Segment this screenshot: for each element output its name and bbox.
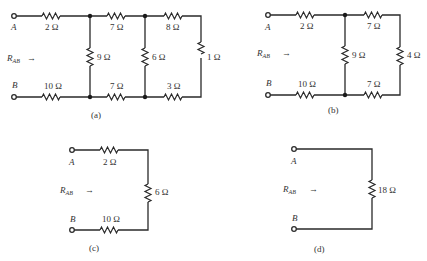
terminal-a-label: A: [10, 22, 17, 32]
terminal-b-label: B: [70, 214, 76, 224]
label-9ohm: 9 Ω: [97, 52, 111, 62]
caption-c: (c): [89, 243, 99, 253]
terminal-b: [70, 228, 75, 233]
resistor-c-10ohm: [100, 227, 118, 233]
resistor-a-2ohm: [42, 13, 60, 19]
circuit-d: A B RAB → 18 Ω (d): [282, 147, 396, 254]
resistor-b-7ohm-top: [364, 12, 382, 18]
arrow-icon: →: [85, 185, 94, 195]
resistor-b-4ohm: [397, 47, 403, 65]
resistor-b-2ohm: [296, 12, 314, 18]
rab-label: RAB: [6, 53, 20, 64]
label-4ohm: 4 Ω: [407, 50, 421, 60]
label-7ohm-top: 7 Ω: [367, 21, 381, 31]
terminal-a: [70, 148, 75, 153]
rab-label: RAB: [59, 185, 73, 196]
resistor-c-6ohm: [145, 184, 151, 202]
junction-node: [343, 13, 347, 17]
resistor-c-2ohm: [100, 147, 118, 153]
arrow-icon: →: [309, 184, 318, 194]
terminal-a: [292, 147, 297, 152]
resistor-a-6ohm: [142, 48, 148, 66]
resistor-a-7ohm-top: [107, 13, 125, 19]
terminal-a: [12, 14, 17, 19]
circuit-a: A B RAB → 2 Ω 7 Ω 8 Ω 9 Ω 6 Ω 1 Ω 10 Ω 7…: [6, 13, 221, 120]
terminal-b: [292, 227, 297, 232]
label-7ohm-bottom: 7 Ω: [110, 81, 124, 91]
label-6ohm: 6 Ω: [152, 52, 166, 62]
label-9ohm: 9 Ω: [352, 50, 366, 60]
label-2ohm: 2 Ω: [103, 157, 117, 167]
caption-b: (b): [328, 105, 339, 115]
resistor-a-9ohm: [87, 48, 93, 66]
terminal-a-label: A: [264, 22, 271, 32]
terminal-b-label: B: [292, 213, 298, 223]
terminal-a: [266, 13, 271, 18]
caption-a: (a): [91, 110, 101, 120]
label-1ohm: 1 Ω: [207, 52, 221, 62]
resistor-b-7ohm-bottom: [364, 92, 382, 98]
terminal-b: [12, 95, 17, 100]
rab-label: RAB: [256, 48, 270, 59]
label-10ohm: 10 Ω: [298, 79, 316, 89]
resistor-a-7ohm-bottom: [107, 94, 125, 100]
label-18ohm: 18 Ω: [378, 185, 396, 195]
circuit-b: A B RAB → 2 Ω 7 Ω 9 Ω 4 Ω 10 Ω 7 Ω (b): [256, 12, 421, 115]
label-3ohm: 3 Ω: [167, 81, 181, 91]
label-10ohm: 10 Ω: [102, 214, 120, 224]
arrow-icon: →: [27, 53, 36, 63]
arrow-icon: →: [282, 48, 291, 58]
label-7ohm-top: 7 Ω: [110, 22, 124, 32]
resistor-b-10ohm: [296, 92, 314, 98]
circuit-c: A B RAB → 2 Ω 6 Ω 10 Ω (c): [59, 147, 169, 253]
junction-node: [88, 95, 92, 99]
caption-d: (d): [314, 244, 325, 254]
junction-node: [88, 14, 92, 18]
terminal-b-label: B: [12, 80, 18, 90]
resistor-d-18ohm: [369, 180, 375, 198]
resistor-a-8ohm: [164, 13, 182, 19]
junction-node: [143, 95, 147, 99]
label-8ohm: 8 Ω: [166, 22, 180, 32]
junction-node: [143, 14, 147, 18]
terminal-a-label: A: [68, 157, 75, 167]
junction-node: [343, 93, 347, 97]
resistor-a-3ohm: [164, 94, 182, 100]
rab-label: RAB: [282, 184, 296, 195]
resistor-a-10ohm: [42, 94, 60, 100]
circuit-figure: A B RAB → 2 Ω 7 Ω 8 Ω 9 Ω 6 Ω 1 Ω 10 Ω 7…: [0, 0, 427, 261]
label-2ohm: 2 Ω: [45, 22, 59, 32]
resistor-a-1ohm: [198, 42, 204, 54]
resistor-b-9ohm: [342, 46, 348, 64]
terminal-a-label: A: [290, 156, 297, 166]
label-10ohm: 10 Ω: [44, 81, 62, 91]
label-6ohm: 6 Ω: [155, 187, 169, 197]
label-7ohm-bottom: 7 Ω: [367, 79, 381, 89]
terminal-b-label: B: [266, 78, 272, 88]
label-2ohm: 2 Ω: [300, 21, 314, 31]
terminal-b: [266, 93, 271, 98]
